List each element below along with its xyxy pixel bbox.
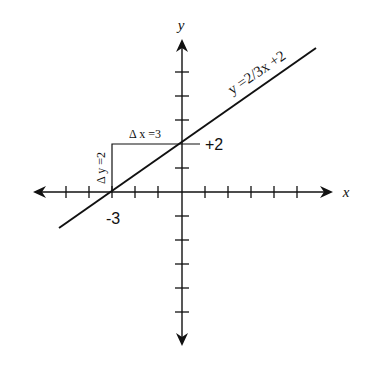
delta-x-label: Δ x =3 xyxy=(129,127,161,141)
delta-y-label: Δ y =2 xyxy=(94,152,108,184)
x-intercept-label: -3 xyxy=(106,210,120,227)
x-axis-label: x xyxy=(342,184,350,200)
y-axis-label: y xyxy=(176,17,185,33)
y-intercept-label: +2 xyxy=(205,136,223,153)
linear-equation-diagram: y x -3 +2 Δ x =3 Δ y =2 y =2/3x +2 xyxy=(0,0,371,368)
graph-line xyxy=(59,48,316,228)
